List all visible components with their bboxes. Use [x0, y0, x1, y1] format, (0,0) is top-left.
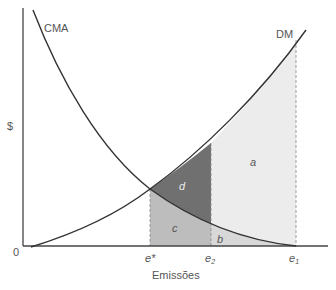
- y-axis-label: $: [7, 120, 13, 132]
- tick-e2: e2: [205, 252, 215, 265]
- dm-label: DM: [276, 28, 293, 40]
- origin-label: 0: [13, 246, 19, 258]
- cma-label: CMA: [44, 22, 69, 34]
- tick-e-star: e*: [145, 252, 156, 264]
- region-b-label: b: [217, 233, 223, 245]
- region-a-label: a: [250, 156, 256, 168]
- emissions-diagram: CMA DM $ 0 Emissões e* e2 e1 a b c d: [0, 0, 336, 290]
- region-c-label: c: [172, 222, 178, 234]
- region-a: [211, 45, 296, 246]
- region-d-label: d: [179, 180, 186, 192]
- tick-e1: e1: [289, 252, 299, 265]
- x-axis-label: Emissões: [152, 269, 200, 281]
